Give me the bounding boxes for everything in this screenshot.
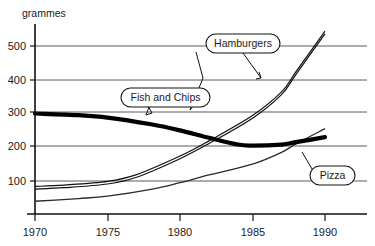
callout-fish-and-chips-label: Fish and Chips	[130, 91, 200, 103]
x-tick-label-1985: 1985	[241, 226, 265, 238]
callout-hamburgers[interactable]: Hamburgers	[206, 34, 280, 53]
leader-hamburgers	[243, 53, 261, 79]
chart-container: grammes 500 400 300 200 100	[0, 0, 375, 246]
x-tick-label-1970: 1970	[23, 226, 47, 238]
x-tick-label-1975: 1975	[96, 226, 120, 238]
callout-leaders	[146, 52, 315, 174]
callout-pizza[interactable]: Pizza	[310, 166, 355, 185]
y-tick-label-100: 100	[8, 175, 26, 187]
series-line-hamburgers-shadow	[35, 34, 325, 189]
callout-pizza-label: Pizza	[320, 169, 346, 181]
series-line-hamburgers	[35, 31, 325, 186]
y-tick-label-500: 500	[8, 40, 26, 52]
callout-fish-and-chips[interactable]: Fish and Chips	[121, 88, 210, 107]
y-tick-label-400: 400	[8, 74, 26, 86]
series-line-pizza	[35, 129, 325, 202]
x-tick-marks	[35, 214, 325, 221]
y-tick-label-200: 200	[8, 140, 26, 152]
x-tick-label-1990: 1990	[313, 226, 337, 238]
callout-hamburgers-label: Hamburgers	[214, 37, 272, 49]
x-tick-label-1980: 1980	[168, 226, 192, 238]
series-group	[35, 31, 325, 201]
series-line-fish-and-chips	[35, 114, 325, 146]
line-chart: grammes 500 400 300 200 100	[0, 0, 375, 246]
y-axis-title: grammes	[22, 7, 66, 19]
y-tick-label-300: 300	[8, 106, 26, 118]
